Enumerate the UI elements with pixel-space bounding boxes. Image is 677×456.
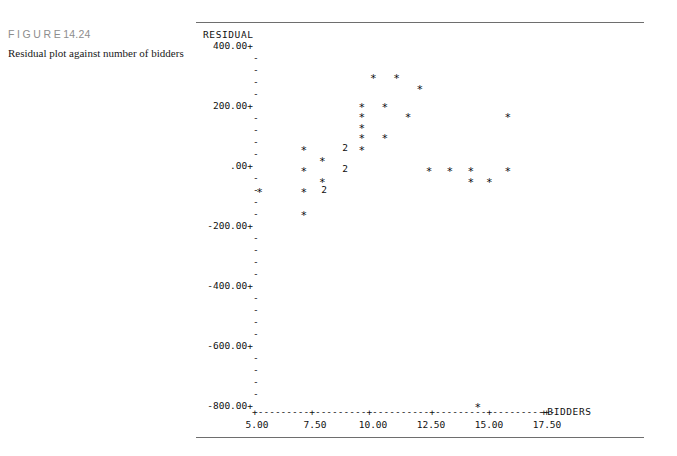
x-axis-tick-label: 17.50 [527, 419, 567, 430]
data-point: * [300, 166, 307, 177]
y-axis-minor-tick: - [253, 124, 259, 135]
y-axis-minor-tick: - [253, 148, 259, 159]
data-point: * [382, 133, 389, 144]
y-axis-minor-tick: - [253, 304, 259, 315]
data-point: * [505, 112, 512, 123]
data-point: * [256, 187, 263, 198]
y-axis-tick-label: -800.00+ [195, 400, 253, 411]
y-axis-minor-tick: - [253, 256, 259, 267]
y-axis-tick-label: 200.00+ [195, 100, 253, 111]
y-axis-title: RESIDUAL [203, 29, 254, 40]
data-point: * [405, 112, 412, 123]
y-axis-tick-label: -400.00+ [195, 280, 253, 291]
y-axis-tick-label: -200.00+ [195, 220, 253, 231]
data-point: * [467, 177, 474, 188]
y-axis-minor-tick: - [253, 292, 259, 303]
y-axis-minor-tick: - [253, 376, 259, 387]
data-point: * [486, 177, 493, 188]
data-point: * [416, 84, 423, 95]
y-axis-minor-tick: - [253, 316, 259, 327]
data-point: * [358, 145, 365, 156]
data-point: * [300, 187, 307, 198]
y-axis-tick-label: 400.00+ [195, 40, 253, 51]
data-point: * [426, 166, 433, 177]
y-axis-minor-tick: - [253, 352, 259, 363]
data-point: * [382, 102, 389, 113]
x-axis-line: +---------+---------+----------+--------… [252, 406, 555, 417]
y-axis-minor-tick: - [253, 208, 259, 219]
y-axis-minor-tick: - [253, 232, 259, 243]
y-axis-minor-tick: - [253, 52, 259, 63]
y-axis-minor-tick: - [253, 172, 259, 183]
data-point: * [505, 166, 512, 177]
data-point: * [300, 145, 307, 156]
data-point: * [370, 73, 377, 84]
x-axis-tick-label: 7.50 [295, 419, 335, 430]
data-point-double: 2 [342, 164, 348, 174]
y-axis-tick-label: -600.00+ [195, 340, 253, 351]
data-point: * [474, 402, 481, 413]
y-axis-minor-tick: - [253, 388, 259, 399]
y-axis-minor-tick: - [253, 364, 259, 375]
data-point: * [447, 166, 454, 177]
y-axis-minor-tick: - [253, 268, 259, 279]
y-axis-minor-tick: - [253, 112, 259, 123]
residual-scatter-plot: RESIDUAL +BIDDERS 400.00+----200.00+----… [0, 0, 677, 456]
data-point: * [358, 133, 365, 144]
data-point: * [393, 73, 400, 84]
y-axis-minor-tick: - [253, 136, 259, 147]
data-point-double: 2 [321, 185, 327, 195]
x-axis-tick-label: 15.00 [469, 419, 509, 430]
data-point: * [300, 210, 307, 221]
y-axis-minor-tick: - [253, 76, 259, 87]
data-point: * [319, 156, 326, 167]
data-point-double: 2 [342, 143, 348, 153]
y-axis-minor-tick: - [253, 88, 259, 99]
x-axis-tick-label: 5.00 [237, 419, 277, 430]
x-axis-tick-label: 12.50 [411, 419, 451, 430]
y-axis-minor-tick: - [253, 64, 259, 75]
y-axis-tick-label: .00+ [195, 160, 253, 171]
y-axis-minor-tick: - [253, 244, 259, 255]
y-axis-minor-tick: - [253, 328, 259, 339]
x-axis-tick-label: 10.00 [353, 419, 393, 430]
figure-root: FIGURE14.24 Residual plot against number… [0, 0, 677, 456]
